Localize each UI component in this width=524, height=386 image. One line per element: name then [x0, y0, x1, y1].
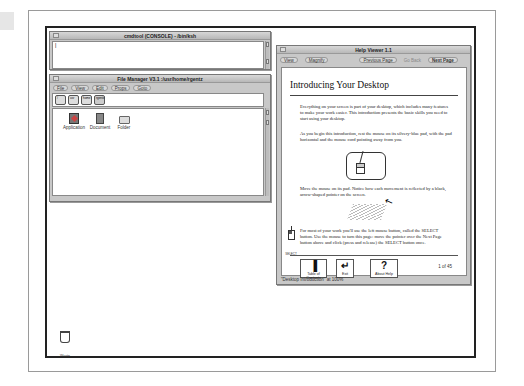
file-item-application[interactable]: Application — [61, 113, 87, 130]
help-paragraph: For most of your work you'll use the lef… — [300, 228, 452, 246]
file-item-document[interactable]: Document — [87, 113, 113, 130]
exit-button[interactable]: ↵ Exit — [336, 259, 354, 278]
wastebasket-icon — [60, 331, 70, 343]
magnify-menu-button[interactable]: Magnify — [305, 57, 329, 63]
help-viewer-toolbar: View Magnify Previous Page Go Back Next … — [277, 54, 470, 65]
mouse-icon — [288, 230, 295, 240]
desktop-screen: cmdtool (CONSOLE) - /bin/ksh | File Mana… — [45, 26, 476, 358]
file-manager-title: File Manager V3.1 :/usr/home/rgentz — [50, 75, 270, 83]
help-status-bar: "Desktop Introduction" at 100% — [281, 277, 343, 282]
console-cursor: | — [55, 42, 56, 48]
path-pane: / usr home rgentz — [52, 93, 264, 107]
file-item-folder[interactable]: Folder — [111, 113, 137, 130]
help-paragraph: Move the mouse on its pad. Notice how ea… — [300, 186, 452, 198]
mouse-icon — [356, 163, 365, 174]
scroll-thumb[interactable] — [266, 59, 269, 64]
path-folder-icon[interactable]: home — [81, 95, 92, 105]
page-counter: 1 of 45 — [438, 264, 452, 269]
next-page-button[interactable]: Next Page — [428, 57, 458, 63]
path-folder-icon[interactable]: usr — [68, 95, 79, 105]
book-icon: ▐ — [301, 260, 326, 272]
file-list-pane[interactable]: Application Document Folder — [52, 108, 264, 196]
menu-goto[interactable]: Goto — [133, 85, 151, 91]
folder-icon — [119, 116, 130, 124]
file-manager-window: File Manager V3.1 :/usr/home/rgentz File… — [49, 74, 271, 202]
file-list-scrollbar[interactable] — [265, 108, 269, 196]
wastebasket-label: Waste — [60, 354, 70, 358]
help-viewer-window: Help Viewer 1.1 View Magnify Previous Pa… — [276, 45, 471, 285]
console-titlebar[interactable]: cmdtool (CONSOLE) - /bin/ksh — [50, 32, 270, 40]
exit-arrow-icon: ↵ — [337, 260, 353, 272]
help-paragraph: Everything on your screen is part of you… — [300, 104, 452, 122]
question-mark-icon: ? — [371, 260, 397, 272]
file-manager-menubar: File View Edit Props Goto — [50, 83, 270, 92]
menu-view[interactable]: View — [71, 85, 89, 91]
path-folder-icon[interactable]: / — [55, 95, 66, 105]
file-manager-titlebar[interactable]: File Manager V3.1 :/usr/home/rgentz — [50, 75, 270, 83]
help-viewer-titlebar[interactable]: Help Viewer 1.1 — [277, 46, 470, 54]
menu-file[interactable]: File — [53, 85, 68, 91]
wastebasket[interactable]: Waste — [57, 331, 73, 361]
help-paragraph: As you begin this introduction, rest the… — [300, 131, 452, 143]
view-menu-button[interactable]: View — [280, 57, 298, 63]
page-margin-tab — [0, 12, 14, 30]
console-terminal[interactable]: | — [52, 41, 264, 69]
heading-divider — [290, 95, 458, 96]
scroll-thumb[interactable] — [266, 110, 269, 115]
help-viewer-title: Help Viewer 1.1 — [277, 46, 470, 54]
console-window: cmdtool (CONSOLE) - /bin/ksh | — [49, 31, 271, 70]
go-back-button[interactable]: Go Back — [400, 57, 425, 63]
menu-edit[interactable]: Edit — [92, 85, 108, 91]
menu-props[interactable]: Props — [111, 85, 131, 91]
help-page: Introducing Your Desktop Everything on y… — [281, 67, 467, 276]
scroll-thumb[interactable] — [266, 120, 269, 125]
footer-divider — [290, 255, 458, 256]
console-title: cmdtool (CONSOLE) - /bin/ksh — [50, 32, 270, 40]
path-folder-icon[interactable]: rgentz — [94, 95, 105, 105]
mouse-on-pad-illustration — [346, 152, 386, 180]
previous-page-button[interactable]: Previous Page — [359, 57, 396, 63]
console-scrollbar[interactable] — [265, 41, 269, 69]
mouse-cord — [359, 151, 363, 163]
pointer-motion-illustration — [347, 204, 387, 220]
document-icon — [96, 113, 104, 124]
scroll-thumb[interactable] — [266, 42, 269, 47]
help-heading: Introducing Your Desktop — [290, 80, 389, 90]
about-help-button[interactable]: ? About Help — [370, 259, 398, 278]
table-of-contents-button[interactable]: ▐ Table of Contents — [300, 259, 327, 278]
application-icon — [69, 113, 79, 124]
